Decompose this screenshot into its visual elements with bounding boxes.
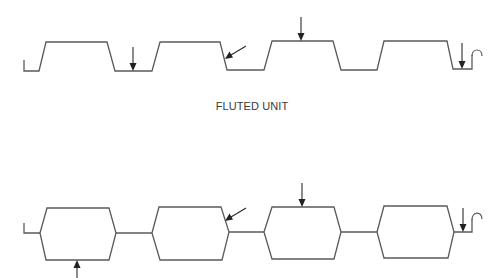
load-arrow-down-icon [459,43,466,69]
load-arrow-down-icon [460,208,467,232]
load-arrow-down-icon [130,47,137,71]
fluted-profile-line [24,41,472,71]
hexagonal-unit-profile [24,183,482,278]
hook-icon [472,50,482,56]
load-arrow-diagonal-icon [225,46,246,59]
hook-icon [472,213,482,220]
load-arrow-down-icon [299,183,306,207]
fluted-unit-profile [24,17,482,71]
left-stub-line [24,223,40,233]
load-arrow-diagonal-icon [225,208,246,221]
hex-cell-2 [152,207,229,260]
fluted-unit-label: FLUTED UNIT [0,100,504,112]
hex-cell-3 [264,207,341,259]
load-arrow-down-icon [298,17,305,41]
load-arrow-up-icon [74,260,81,278]
hex-cell-1 [40,208,116,260]
profiles-diagram [0,0,504,278]
hex-cell-4 [377,206,454,258]
